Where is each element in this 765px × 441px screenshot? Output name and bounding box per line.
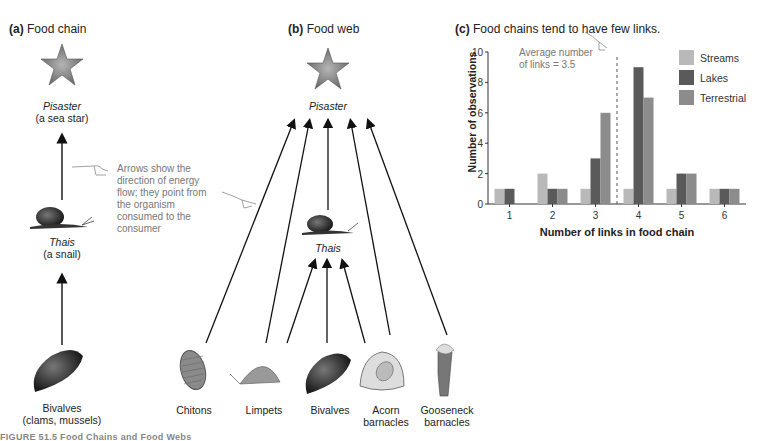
pointing-hand-icon <box>72 166 108 175</box>
note-line: consumed to the <box>117 211 237 223</box>
prey-name: Limpets <box>236 404 292 416</box>
prey-label-acorn-barnacles: Acornbarnacles <box>358 404 414 428</box>
snail-icon <box>302 215 358 235</box>
bivalves-label-a: Bivalves <box>12 402 112 414</box>
prey-label-gooseneck-barnacles: Gooseneckbarnacles <box>416 404 478 428</box>
pisaster-label-b: Pisaster <box>293 100 363 112</box>
figure-caption: FIGURE 51.5 Food Chains and Food Webs <box>0 432 300 441</box>
note-line: Arrows show the <box>117 163 237 175</box>
panel-c-title-text: Food chains tend to have few links. <box>473 22 660 36</box>
note-line: the organism <box>117 199 237 211</box>
legend-item-terrestrial: Terrestrial <box>679 90 746 105</box>
svg-text:2: 2 <box>477 169 483 180</box>
bivalve-icon <box>306 353 351 394</box>
legend-swatch <box>679 50 694 65</box>
note-line: direction of energy <box>117 175 237 187</box>
acorn-barnacle-icon <box>360 352 404 390</box>
bivalves-desc-a: (clams, mussels) <box>6 414 118 426</box>
panel-b-prefix: (b) <box>288 22 303 36</box>
legend-label: Streams <box>700 52 739 64</box>
legend-swatch <box>679 70 694 85</box>
prey-name-2: barnacles <box>358 416 414 428</box>
prey-label-chitons: Chitons <box>168 404 220 416</box>
pisaster-desc-a: (a sea star) <box>20 112 104 124</box>
prey-name: Acorn <box>358 404 414 416</box>
prey-name: Bivalves <box>302 404 358 416</box>
legend-swatch <box>679 90 694 105</box>
legend-label: Terrestrial <box>700 92 746 104</box>
svg-text:4: 4 <box>477 138 483 149</box>
y-axis-label: Number of observations <box>466 42 478 182</box>
svg-text:6: 6 <box>722 210 728 220</box>
annotation-line: Average number <box>519 47 619 59</box>
panel-b-title: (b) Food web <box>288 22 359 36</box>
note-line: consumer <box>117 223 237 235</box>
sea-star-icon <box>307 48 349 89</box>
sea-star-icon <box>41 44 83 85</box>
energy-flow-note: Arrows show the direction of energy flow… <box>117 163 237 235</box>
panel-b-title-text: Food web <box>307 22 360 36</box>
chart-legend: Streams Lakes Terrestrial <box>679 50 746 110</box>
prey-name: Gooseneck <box>416 404 478 416</box>
x-axis-label: Number of links in food chain <box>492 226 742 238</box>
gooseneck-barnacle-icon <box>436 344 454 396</box>
panel-c-prefix: (c) <box>455 22 470 36</box>
prey-label-bivalves: Bivalves <box>302 404 358 416</box>
panel-c-title: (c) Food chains tend to have few links. <box>455 22 660 36</box>
svg-text:4: 4 <box>636 210 642 220</box>
svg-text:1: 1 <box>507 210 513 220</box>
svg-text:6: 6 <box>477 108 483 119</box>
pisaster-label-a: Pisaster <box>27 100 97 112</box>
prey-label-limpets: Limpets <box>236 404 292 416</box>
annotation-line: of links = 3.5 <box>519 59 619 71</box>
average-annotation: Average number of links = 3.5 <box>519 47 619 71</box>
svg-text:2: 2 <box>550 210 556 220</box>
prey-name: Chitons <box>168 404 220 416</box>
note-line: flow; they point from <box>117 187 237 199</box>
svg-text:8: 8 <box>477 77 483 88</box>
thais-label-b: Thais <box>293 242 363 254</box>
chiton-icon <box>176 348 210 393</box>
svg-text:3: 3 <box>593 210 599 220</box>
thais-desc-a: (a snail) <box>20 248 104 260</box>
thais-label-a: Thais <box>27 236 97 248</box>
svg-text:5: 5 <box>679 210 685 220</box>
legend-label: Lakes <box>700 72 728 84</box>
prey-name-2: barnacles <box>416 416 478 428</box>
limpet-icon <box>230 366 280 384</box>
bivalve-icon <box>34 350 83 392</box>
legend-item-lakes: Lakes <box>679 70 746 85</box>
legend-item-streams: Streams <box>679 50 746 65</box>
snail-icon <box>30 207 94 229</box>
svg-text:0: 0 <box>477 199 483 210</box>
